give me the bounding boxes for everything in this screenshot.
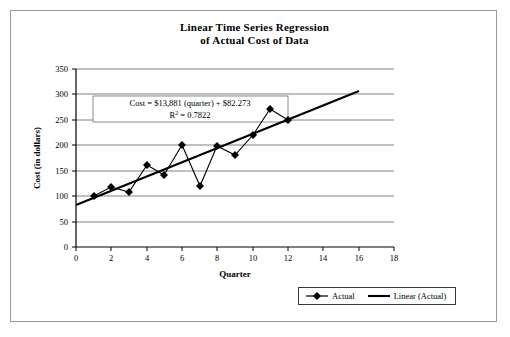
x-tick-4: 4 bbox=[145, 253, 150, 263]
legend-marker-line-icon bbox=[368, 291, 390, 301]
y-axis-title: Cost (in dollars) bbox=[32, 127, 42, 189]
x-tick-10: 10 bbox=[249, 253, 258, 263]
y-tick-150: 150 bbox=[55, 166, 68, 176]
y-tick-100: 100 bbox=[55, 191, 68, 201]
x-tick-16: 16 bbox=[355, 253, 364, 263]
annotation-equation: Cost = $13,881 (quarter) + $82.273 bbox=[130, 98, 251, 108]
plot-area: 350 300 250 200 150 100 50 0 0 2 4 bbox=[11, 11, 498, 323]
y-tick-50: 50 bbox=[60, 217, 69, 227]
x-tick-12: 12 bbox=[284, 253, 293, 263]
gridlines bbox=[76, 69, 394, 222]
y-axis-tick-labels: 350 300 250 200 150 100 50 0 bbox=[55, 64, 68, 252]
x-tick-18: 18 bbox=[390, 253, 399, 263]
data-point-marker bbox=[143, 161, 151, 169]
legend-label-linear-actual: Linear (Actual) bbox=[394, 291, 447, 301]
chart-legend: Actual Linear (Actual) bbox=[298, 287, 456, 305]
legend-item-linear-actual[interactable]: Linear (Actual) bbox=[368, 291, 447, 301]
legend-label-actual: Actual bbox=[332, 291, 355, 301]
x-tick-6: 6 bbox=[180, 253, 184, 263]
y-tick-300: 300 bbox=[55, 89, 68, 99]
regression-annotation: Cost = $13,881 (quarter) + $82.273 R2 = … bbox=[93, 96, 288, 122]
data-point-marker bbox=[125, 188, 133, 196]
x-tick-0: 0 bbox=[74, 253, 78, 263]
y-tick-200: 200 bbox=[55, 140, 68, 150]
x-tick-14: 14 bbox=[319, 253, 328, 263]
x-axis-tick-labels: 0 2 4 6 8 10 12 14 16 18 bbox=[74, 253, 398, 263]
y-tick-250: 250 bbox=[55, 115, 68, 125]
x-tick-2: 2 bbox=[109, 253, 113, 263]
x-axis-title: Quarter bbox=[219, 269, 251, 279]
r-squared-value: = 0.7822 bbox=[178, 110, 210, 120]
x-tick-8: 8 bbox=[215, 253, 219, 263]
legend-item-actual[interactable]: Actual bbox=[306, 291, 355, 301]
x-axis-ticks bbox=[76, 247, 394, 251]
data-point-marker bbox=[178, 141, 186, 149]
data-point-marker bbox=[196, 182, 204, 190]
chart-frame: Linear Time Series Regression of Actual … bbox=[10, 10, 497, 322]
data-point-marker bbox=[160, 171, 168, 179]
y-tick-350: 350 bbox=[55, 64, 68, 74]
legend-marker-diamond-line-icon bbox=[306, 291, 328, 301]
y-tick-0: 0 bbox=[64, 242, 68, 252]
